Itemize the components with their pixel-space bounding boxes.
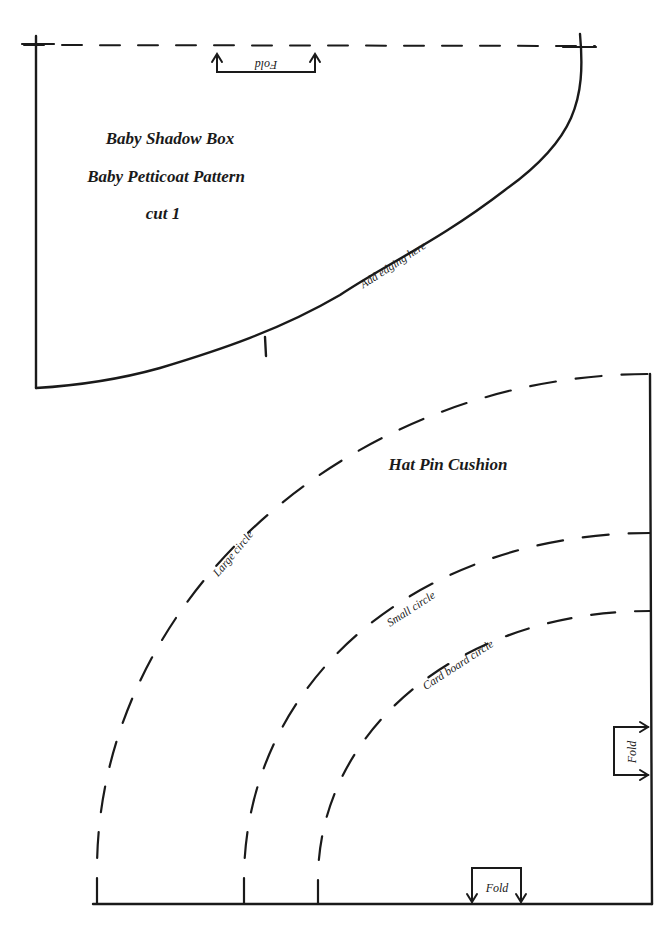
small-circle-arc bbox=[244, 533, 650, 904]
title-hat-pin-cushion: Hat Pin Cushion bbox=[387, 455, 507, 474]
right-fold-label: Fold bbox=[625, 740, 639, 765]
petticoat-pattern bbox=[22, 34, 596, 388]
cushion-right-edge bbox=[650, 374, 652, 904]
pattern-sheet: Fold Baby Shadow Box Baby Petticoat Patt… bbox=[0, 0, 672, 930]
card-board-circle-arc bbox=[318, 611, 650, 904]
edging-label: Add edging here bbox=[357, 239, 428, 292]
petticoat-curved-edge bbox=[36, 34, 581, 388]
notch-mark bbox=[265, 337, 266, 356]
title-cut-count: cut 1 bbox=[146, 204, 180, 223]
petticoat-fold-label: Fold bbox=[254, 58, 279, 72]
large-circle-label: Large circle bbox=[210, 528, 256, 580]
bottom-fold-label: Fold bbox=[485, 881, 510, 895]
title-baby-shadow-box: Baby Shadow Box bbox=[105, 129, 235, 148]
hat-pin-cushion-pattern bbox=[93, 374, 652, 904]
petticoat-fold-line bbox=[24, 45, 595, 46]
large-circle-arc bbox=[97, 374, 650, 904]
card-board-circle-label: Card board circle bbox=[420, 637, 495, 692]
title-baby-petticoat-pattern: Baby Petticoat Pattern bbox=[86, 167, 245, 186]
